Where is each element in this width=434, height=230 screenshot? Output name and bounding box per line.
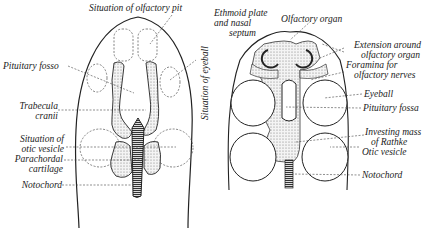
- label-parachordal-2: cartilage: [0, 164, 63, 174]
- label-olfactory-pit: Situation of olfactory pit: [89, 3, 182, 13]
- label-extension-2: olfactory organ: [361, 50, 420, 60]
- label-otic-situation-1: Situation of: [0, 134, 64, 144]
- label-ethmoid-2: and nasal: [214, 18, 251, 28]
- right-embryo-skull: [228, 21, 364, 190]
- label-foramina-2: olfactory nerves: [354, 70, 415, 80]
- label-olfactory-organ: Olfactory organ: [281, 14, 342, 24]
- embryo-skull-diagram: [0, 0, 434, 230]
- label-investing-2: of Rathke: [371, 137, 407, 147]
- label-pituitary-fosso: Pituitary fosso: [3, 61, 59, 71]
- label-ethmoid-1: Ethmoid plate: [214, 8, 268, 18]
- label-situation-eyeball: Situation of eyeball: [200, 46, 210, 120]
- left-embryo-head: [58, 15, 196, 228]
- label-parachordal-1: Parachordal: [0, 154, 63, 164]
- label-trabecula-2: cranii: [10, 111, 58, 121]
- label-trabecula-1: Trabecula: [10, 101, 58, 111]
- label-ethmoid-3: septum: [229, 28, 256, 38]
- label-otic-vesicle: Otic vesicle: [362, 147, 407, 157]
- label-extension-1: Extension around: [354, 40, 421, 50]
- label-otic-situation-2: otic vesicle: [0, 144, 64, 154]
- label-notochord-right: Notochord: [362, 170, 402, 180]
- label-pituitary-fossa: Pituitary fossa: [363, 103, 419, 113]
- label-investing-1: Investing mass: [365, 127, 421, 137]
- label-notochord-left: Notochord: [0, 180, 62, 190]
- label-eyeball: Eyeball: [364, 89, 393, 99]
- label-foramina-1: Foramina for: [346, 60, 397, 70]
